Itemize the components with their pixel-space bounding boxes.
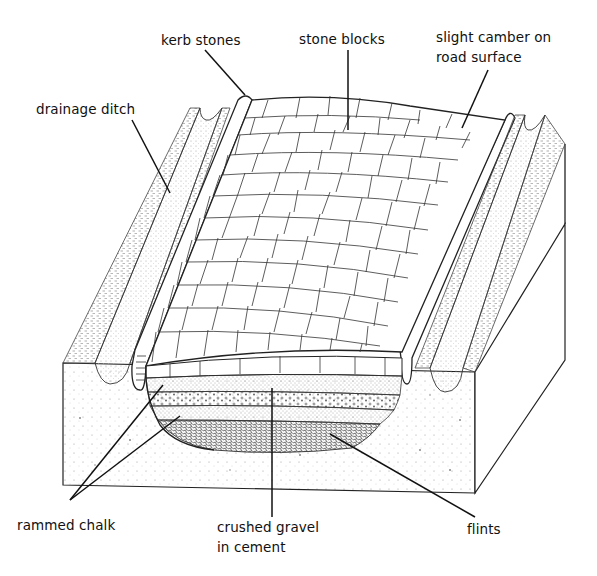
label-kerb-stones: kerb stones	[161, 31, 241, 50]
roman-road-diagram	[0, 0, 597, 576]
label-rammed-chalk: rammed chalk	[17, 516, 115, 535]
label-camber-line2: road surface	[436, 48, 522, 67]
label-stone-blocks: stone blocks	[299, 30, 385, 49]
label-camber-line1: slight camber on	[436, 28, 551, 47]
label-flints: flints	[467, 520, 501, 539]
road-cross-section	[146, 356, 402, 453]
label-drainage-ditch: drainage ditch	[36, 100, 135, 119]
label-gravel-line2: in cement	[217, 538, 286, 557]
label-gravel-line1: crushed gravel	[217, 518, 319, 537]
